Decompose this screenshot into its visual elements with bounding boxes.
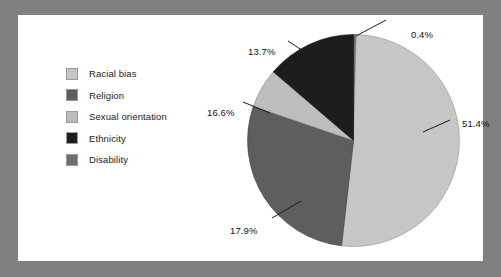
pie-chart: [246, 33, 461, 248]
callout-value-sexual-orientation: 16.6%: [207, 107, 234, 118]
figure-panel: Racial bias Religion Sexual orientation …: [18, 15, 483, 261]
pie-chart-screenshot: Racial bias Religion Sexual orientation …: [0, 0, 501, 277]
legend-label-racial-bias: Racial bias: [89, 68, 137, 79]
legend-item-ethnicity: Ethnicity: [66, 128, 216, 150]
pie-svg: [246, 33, 461, 248]
legend-item-disability: Disability: [66, 149, 216, 171]
callout-value-racial-bias: 51.4%: [462, 118, 489, 129]
legend-item-sexual-orientation: Sexual orientation: [66, 106, 216, 128]
legend-swatch-icon-ethnicity: [66, 132, 78, 144]
legend-swatch-icon-sexual-orientation: [66, 111, 78, 123]
legend-label-ethnicity: Ethnicity: [89, 133, 126, 144]
callout-value-religion: 17.9%: [230, 225, 257, 236]
legend-label-disability: Disability: [89, 154, 128, 165]
legend-item-religion: Religion: [66, 85, 216, 107]
legend-item-racial-bias: Racial bias: [66, 63, 216, 85]
legend-swatch-icon-religion: [66, 89, 78, 101]
callout-value-disability: 0.4%: [411, 29, 433, 40]
legend-swatch-icon-racial-bias: [66, 68, 78, 80]
chart-legend: Racial bias Religion Sexual orientation …: [66, 63, 216, 171]
callout-value-ethnicity: 13.7%: [248, 46, 275, 57]
pie-slice-racial-bias: [342, 35, 460, 247]
legend-label-sexual-orientation: Sexual orientation: [89, 111, 167, 122]
legend-swatch-icon-disability: [66, 154, 78, 166]
legend-label-religion: Religion: [89, 90, 124, 101]
